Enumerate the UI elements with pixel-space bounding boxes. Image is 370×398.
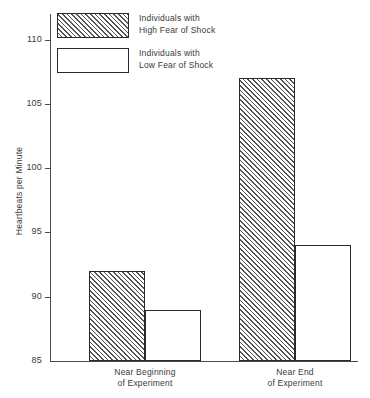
bar-high-fear-group-2 [239,78,295,361]
legend-label-line: High Fear of Shock [139,25,215,37]
legend-label: Individuals withHigh Fear of Shock [139,13,215,36]
y-tick-mark [45,168,51,169]
legend-label-line: Individuals with [139,13,215,25]
y-tick-label: 95 [12,227,42,236]
y-tick-mark [45,104,51,105]
y-tick-label: 85 [12,356,42,365]
legend-swatch-hatched [57,13,129,38]
bar-low-fear-group-1 [145,310,201,361]
x-axis-line [50,361,358,362]
category-label-line: Near Beginning [70,367,220,378]
legend-label-line: Low Fear of Shock [139,60,213,72]
y-tick-label: 100 [12,163,42,172]
legend-label-line: Individuals with [139,48,213,60]
legend-label: Individuals withLow Fear of Shock [139,48,213,71]
y-tick-mark [45,40,51,41]
category-label-1: Near Beginningof Experiment [70,367,220,389]
bar-low-fear-group-2 [295,245,351,361]
category-label-line: of Experiment [70,378,220,389]
y-tick-mark [45,232,51,233]
y-axis-title: Heartbeats per Minute [14,126,24,256]
y-tick-mark [45,297,51,298]
legend-swatch-white [57,48,129,73]
category-label-2: Near Endof Experiment [220,367,370,389]
y-tick-label: 105 [12,99,42,108]
bar-chart: Heartbeats per Minute 859095100105110 Ne… [0,0,370,398]
category-label-line: of Experiment [220,378,370,389]
y-tick-label: 110 [12,35,42,44]
y-tick-label: 90 [12,292,42,301]
category-label-line: Near End [220,367,370,378]
y-axis-line [50,14,51,362]
bar-high-fear-group-1 [89,271,145,361]
